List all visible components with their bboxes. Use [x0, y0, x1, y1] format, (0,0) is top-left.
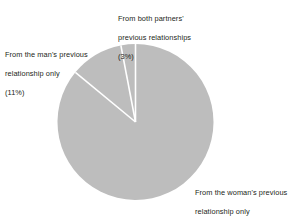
slice-label-woman-line1: From the woman's previous	[195, 188, 287, 197]
slice-label-both-line1: From both partners'	[118, 14, 184, 23]
slice-label-both-value: (3%)	[118, 52, 134, 61]
slice-label-man-line1: From the man's previous	[5, 50, 88, 59]
slice-label-both: From both partners' previous relationshi…	[118, 4, 218, 62]
slice-label-woman: From the woman's previous relationship o…	[195, 178, 299, 216]
pie-chart-figure: From both partners' previous relationshi…	[0, 0, 299, 216]
slice-label-woman-line2: relationship only	[195, 207, 250, 216]
slice-label-man: From the man's previous relationship onl…	[5, 40, 105, 98]
slice-label-man-line2: relationship only	[5, 69, 60, 78]
slice-label-both-line2: previous relationships	[118, 33, 191, 42]
slice-label-man-value: (11%)	[5, 88, 25, 97]
